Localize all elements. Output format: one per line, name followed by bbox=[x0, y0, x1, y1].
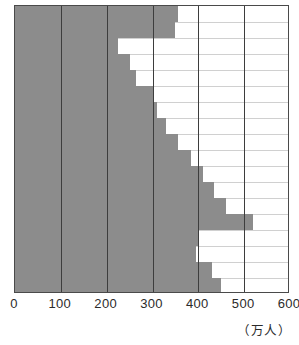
gridline-200 bbox=[107, 6, 108, 292]
x-tick-label-0: 0 bbox=[10, 296, 18, 311]
gridline-300 bbox=[153, 6, 154, 292]
horizontal-bar-chart: 0100200300400500600 （万人） bbox=[0, 0, 299, 345]
x-tick-label-100: 100 bbox=[49, 296, 72, 311]
x-tick-label-400: 400 bbox=[186, 296, 209, 311]
axis-unit-label: （万人） bbox=[237, 320, 291, 339]
x-tick-label-600: 600 bbox=[278, 296, 299, 311]
x-tick-label-300: 300 bbox=[140, 296, 163, 311]
gridline-500 bbox=[244, 6, 245, 292]
x-tick-label-500: 500 bbox=[232, 296, 255, 311]
gridlines-container bbox=[15, 6, 288, 292]
gridline-400 bbox=[198, 6, 199, 292]
x-tick-label-200: 200 bbox=[94, 296, 117, 311]
plot-area bbox=[14, 5, 289, 293]
gridline-100 bbox=[61, 6, 62, 292]
x-axis-tick-labels: 0100200300400500600 bbox=[0, 296, 299, 316]
